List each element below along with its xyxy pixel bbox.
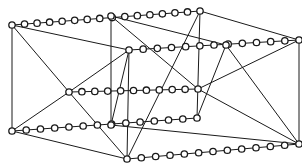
chain-bead-node bbox=[182, 86, 188, 92]
chain-bead-node bbox=[71, 17, 77, 23]
hub-layer bbox=[9, 8, 302, 162]
hub-node-I bbox=[9, 128, 15, 134]
chain-bead-node bbox=[92, 88, 98, 94]
chain-bead-node bbox=[123, 120, 129, 126]
chain-bead-node bbox=[46, 19, 52, 25]
chain-bead-node bbox=[267, 143, 273, 149]
chain-bead-node bbox=[156, 87, 162, 93]
hub-node-C bbox=[197, 8, 203, 14]
chain-bead-node bbox=[59, 18, 65, 24]
chain-bead-node bbox=[79, 89, 85, 95]
chain-bead-node bbox=[154, 45, 160, 51]
hub-node-M bbox=[296, 141, 302, 147]
chain-bead-node bbox=[138, 155, 144, 161]
chain-bead-node bbox=[184, 9, 190, 15]
chain-bead-node bbox=[122, 13, 128, 19]
chain-bead-node bbox=[182, 43, 188, 49]
chain-bead-node bbox=[165, 117, 171, 123]
chain-bead-node bbox=[210, 148, 216, 154]
graph-canvas bbox=[0, 0, 302, 166]
edge-E-M bbox=[226, 45, 299, 144]
chain-bead-node bbox=[34, 20, 40, 26]
chain-bead-node bbox=[181, 151, 187, 157]
chain-bead-node bbox=[94, 122, 100, 128]
chain-bead-node bbox=[224, 147, 230, 153]
chain-bead-node bbox=[143, 87, 149, 93]
chain-bead-node bbox=[66, 124, 72, 130]
chain-bead-node bbox=[168, 44, 174, 50]
chain-bead-node bbox=[267, 38, 273, 44]
chain-bead-node bbox=[117, 88, 123, 94]
chain-bead-node bbox=[80, 123, 86, 129]
chain-bead-node bbox=[159, 11, 165, 17]
chain-bead-node bbox=[197, 43, 203, 49]
chain-bead-node bbox=[238, 146, 244, 152]
hub-node-E bbox=[223, 42, 229, 48]
chain-bead-node bbox=[172, 10, 178, 16]
chain-bead-node bbox=[97, 15, 103, 21]
hub-node-B bbox=[108, 13, 114, 19]
chain-bead-node bbox=[152, 153, 158, 159]
chain-bead-node bbox=[147, 12, 153, 18]
edge-C-L bbox=[127, 11, 200, 159]
edge-layer bbox=[12, 11, 299, 159]
chain-bead-node bbox=[84, 16, 90, 22]
chain-bead-node bbox=[21, 21, 27, 27]
hub-node-H bbox=[195, 86, 201, 92]
chain-bead-node bbox=[151, 118, 157, 124]
chain-bead-node bbox=[281, 142, 287, 148]
edge-I-L bbox=[12, 131, 127, 159]
chain-bead-node bbox=[23, 127, 29, 133]
hub-node-A bbox=[9, 22, 15, 28]
chain-bead-node bbox=[130, 87, 136, 93]
chain-bead-node bbox=[134, 12, 140, 18]
hub-node-F bbox=[296, 37, 302, 43]
chain-bead-node bbox=[211, 42, 217, 48]
chain-bead-node bbox=[253, 39, 259, 45]
chain-bead-node bbox=[239, 40, 245, 46]
graph-diagram bbox=[0, 0, 302, 166]
hub-node-K bbox=[194, 115, 200, 121]
hub-node-D bbox=[126, 47, 132, 53]
chain-bead-node bbox=[282, 38, 288, 44]
edge-C-K bbox=[197, 11, 200, 118]
chain-bead-node bbox=[180, 116, 186, 122]
chain-bead-node bbox=[51, 125, 57, 131]
hub-node-L bbox=[124, 156, 130, 162]
chain-bead-node bbox=[253, 145, 259, 151]
chain-bead-node bbox=[137, 119, 143, 125]
edge-C-F bbox=[200, 11, 299, 40]
chain-bead-node bbox=[105, 88, 111, 94]
chain-bead-node bbox=[167, 152, 173, 158]
edge-E-K bbox=[197, 45, 226, 118]
hub-node-J bbox=[108, 122, 114, 128]
chain-bead-node bbox=[140, 46, 146, 52]
chain-bead-node bbox=[195, 150, 201, 156]
edge-G-I bbox=[12, 92, 69, 131]
hub-node-G bbox=[66, 89, 72, 95]
chain-bead-node bbox=[169, 86, 175, 92]
edge-D-L bbox=[127, 50, 129, 159]
chain-bead-node bbox=[37, 126, 43, 132]
